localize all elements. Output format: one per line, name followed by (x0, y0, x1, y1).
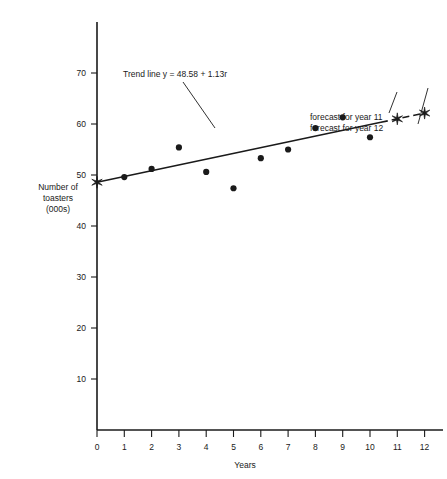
annotation-leader-trend-label (183, 82, 215, 128)
y-axis-title: Number of toasters (000s) (38, 182, 78, 214)
x-tick-label: 5 (231, 442, 236, 452)
axes-group (97, 22, 443, 430)
x-tick-label: 2 (149, 442, 154, 452)
x-tick-label: 0 (95, 442, 100, 452)
y-tick-label: 30 (77, 272, 87, 282)
x-tick-label: 9 (340, 442, 345, 452)
y-axis-ticks: 10203040506070 (77, 68, 97, 384)
y-tick-label: 60 (77, 119, 87, 129)
chart-container: 10203040506070 0123456789101112 Trend li… (0, 0, 447, 479)
data-point (149, 166, 155, 172)
trend-line-annotation: Trend line y = 48.58 + 1.13r (123, 69, 227, 79)
x-axis-title: Years (234, 460, 255, 470)
y-tick-label: 70 (77, 68, 87, 78)
y-tick-label: 10 (77, 374, 87, 384)
annotation-leaders-group (183, 82, 428, 128)
annotation-leader-forecast-12 (418, 88, 428, 124)
forecast-year-12-annotation: forecast for year 12 (310, 123, 384, 133)
x-tick-label: 3 (177, 442, 182, 452)
scatter-chart: 10203040506070 0123456789101112 Trend li… (0, 0, 447, 479)
data-point (203, 169, 209, 175)
x-tick-label: 7 (286, 442, 291, 452)
y-tick-label: 40 (77, 221, 87, 231)
y-tick-label: 50 (77, 170, 87, 180)
x-tick-label: 8 (313, 442, 318, 452)
y-axis-title-line-2: toasters (43, 193, 73, 203)
x-axis-ticks: 0123456789101112 (95, 430, 430, 452)
x-tick-label: 6 (258, 442, 263, 452)
annotation-leader-forecast-11 (389, 92, 397, 113)
forecast-year-11-annotation: forecast for year 11 (310, 112, 383, 122)
y-axis-title-line-3: (000s) (46, 204, 70, 214)
y-tick-label: 20 (77, 323, 87, 333)
data-point (176, 144, 182, 150)
x-tick-label: 1 (122, 442, 127, 452)
x-tick-label: 11 (393, 442, 402, 452)
data-point (230, 185, 236, 191)
data-point (121, 174, 127, 180)
x-tick-label: 10 (365, 442, 375, 452)
data-point (367, 134, 373, 140)
forecast-dashed-line (381, 113, 425, 122)
x-tick-label: 4 (204, 442, 209, 452)
data-point (285, 146, 291, 152)
y-axis-title-line-1: Number of (38, 182, 78, 192)
x-tick-label: 12 (420, 442, 430, 452)
data-point (258, 155, 264, 161)
